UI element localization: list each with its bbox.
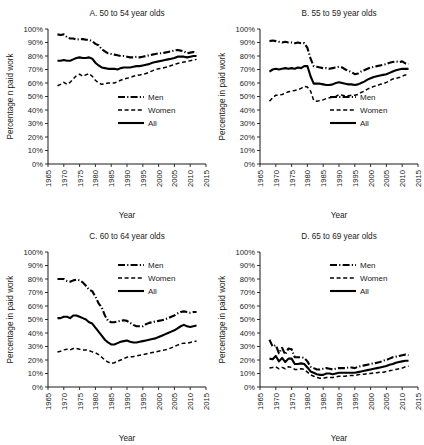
y-tick-label: 0% (32, 160, 43, 169)
y-axis-label: Percentage in paid work (6, 275, 15, 364)
y-tick-label: 10% (240, 146, 255, 155)
series-line-men (57, 279, 196, 326)
y-tick-label: 60% (240, 79, 255, 88)
x-tick-label: 2000 (367, 170, 376, 187)
x-tick-label: 1995 (139, 170, 148, 187)
x-tick-label: 1965 (256, 393, 265, 410)
panel-title-a: A. 50 to 54 year olds (89, 9, 164, 18)
x-tick-label: 1975 (288, 170, 297, 187)
x-tick-label: 1985 (107, 170, 116, 187)
x-tick-label: 2015 (414, 170, 423, 187)
y-tick-label: 80% (28, 275, 43, 284)
x-tick-label: 1965 (44, 393, 53, 410)
y-tick-label: 50% (28, 92, 43, 101)
chart-svg-a: A. 50 to 54 year olds0%10%20%30%40%50%60… (0, 0, 212, 222)
x-tick-label: 1975 (76, 393, 85, 410)
chart-svg-d: D. 65 to 69 year olds0%10%20%30%40%50%60… (212, 223, 424, 445)
series-line-women (269, 75, 408, 101)
x-tick-label: 2005 (382, 170, 391, 187)
y-tick-label: 60% (240, 302, 255, 311)
x-axis-label: Year (119, 434, 136, 443)
y-tick-label: 100% (24, 248, 44, 257)
y-axis-label: Percentage in paid work (218, 275, 227, 364)
y-tick-label: 10% (28, 369, 43, 378)
x-tick-label: 1985 (319, 170, 328, 187)
x-tick-label: 2000 (155, 170, 164, 187)
y-tick-label: 60% (28, 79, 43, 88)
y-tick-label: 30% (240, 119, 255, 128)
x-tick-label: 1985 (319, 393, 328, 410)
y-tick-label: 70% (28, 65, 43, 74)
x-axis-label: Year (119, 211, 136, 220)
x-tick-label: 1980 (303, 393, 312, 410)
y-tick-label: 80% (240, 275, 255, 284)
y-axis-label: Percentage in paid work (218, 52, 227, 141)
x-tick-label: 2010 (398, 393, 407, 410)
x-tick-label: 1995 (139, 393, 148, 410)
x-tick-label: 1965 (44, 170, 53, 187)
legend-label-women: Women (360, 106, 387, 115)
y-tick-label: 60% (28, 302, 43, 311)
x-tick-label: 1990 (123, 393, 132, 410)
x-tick-label: 1975 (288, 393, 297, 410)
x-axis-label: Year (331, 211, 348, 220)
x-tick-label: 2015 (202, 170, 211, 187)
y-tick-label: 90% (240, 261, 255, 270)
x-tick-label: 1980 (91, 170, 100, 187)
x-tick-label: 2015 (202, 393, 211, 410)
x-tick-label: 2000 (155, 393, 164, 410)
y-tick-label: 100% (236, 25, 256, 34)
y-tick-label: 80% (240, 52, 255, 61)
x-tick-label: 2005 (382, 393, 391, 410)
chart-panel-d: D. 65 to 69 year olds0%10%20%30%40%50%60… (212, 223, 424, 445)
x-tick-label: 2010 (186, 170, 195, 187)
y-tick-label: 50% (240, 315, 255, 324)
y-tick-label: 40% (28, 329, 43, 338)
x-tick-label: 2000 (367, 393, 376, 410)
x-tick-label: 1990 (335, 393, 344, 410)
y-tick-label: 30% (28, 342, 43, 351)
y-tick-label: 70% (28, 288, 43, 297)
legend-label-all: All (148, 119, 157, 128)
x-tick-label: 1980 (303, 170, 312, 187)
y-tick-label: 100% (24, 25, 44, 34)
y-tick-label: 0% (244, 383, 255, 392)
y-tick-label: 20% (240, 133, 255, 142)
x-tick-label: 1995 (351, 170, 360, 187)
x-tick-label: 1970 (272, 170, 281, 187)
y-tick-label: 20% (240, 356, 255, 365)
y-tick-label: 10% (240, 369, 255, 378)
x-tick-label: 2010 (398, 170, 407, 187)
y-tick-label: 40% (240, 106, 255, 115)
legend-label-men: Men (148, 261, 164, 270)
y-tick-label: 30% (28, 119, 43, 128)
panel-title-d: D. 65 to 69 year olds (301, 232, 377, 241)
x-tick-label: 1970 (272, 393, 281, 410)
x-tick-label: 1985 (107, 393, 116, 410)
legend-label-women: Women (360, 274, 387, 283)
x-tick-label: 2010 (186, 393, 195, 410)
x-tick-label: 1995 (351, 393, 360, 410)
series-line-all (57, 56, 196, 70)
legend-label-men: Men (360, 261, 376, 270)
legend-label-all: All (360, 287, 369, 296)
y-tick-label: 0% (32, 383, 43, 392)
y-tick-label: 70% (240, 65, 255, 74)
series-line-women (57, 341, 196, 363)
chart-svg-b: B. 55 to 59 year olds0%10%20%30%40%50%60… (212, 0, 424, 222)
y-tick-label: 90% (28, 38, 43, 47)
panel-title-c: C. 60 to 64 year olds (89, 232, 165, 241)
y-tick-label: 80% (28, 52, 43, 61)
figure-container: A. 50 to 54 year olds0%10%20%30%40%50%60… (0, 0, 424, 445)
y-tick-label: 0% (244, 160, 255, 169)
y-tick-label: 30% (240, 342, 255, 351)
y-tick-label: 50% (28, 315, 43, 324)
x-tick-label: 2005 (170, 393, 179, 410)
x-tick-label: 2015 (414, 393, 423, 410)
y-tick-label: 20% (28, 133, 43, 142)
x-tick-label: 1990 (123, 170, 132, 187)
legend-label-women: Women (148, 106, 175, 115)
series-line-women (57, 59, 196, 85)
legend-label-all: All (360, 119, 369, 128)
y-axis-label: Percentage n paid work (6, 53, 15, 140)
